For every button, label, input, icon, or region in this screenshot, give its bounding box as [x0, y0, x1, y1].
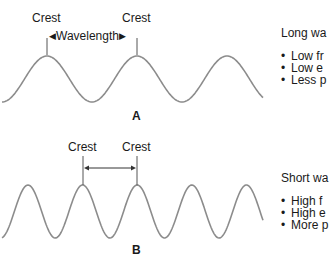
short-wave-description: Short wa High f High e More p	[281, 172, 328, 231]
arrow-left-icon: ◀	[49, 31, 56, 41]
crest-label-a-left: Crest	[32, 11, 61, 25]
long-wave-description: Long wa Low fr Low e Less p	[281, 27, 326, 86]
long-wave-title: Long wa	[281, 27, 326, 40]
long-wave-curve	[2, 56, 263, 102]
long-wave-properties: Low fr Low e Less p	[281, 50, 326, 86]
crest-label-b-left: Crest	[68, 140, 97, 154]
property-item: Less p	[281, 74, 326, 86]
short-wave-title: Short wa	[281, 172, 328, 185]
panel-label-a: A	[132, 109, 141, 123]
panel-label-b: B	[132, 243, 141, 255]
arrow-right-icon: ▶	[119, 31, 126, 41]
crest-label-a-right: Crest	[122, 11, 151, 25]
wavelength-label-a: ◀Wavelength▶	[49, 29, 126, 44]
wavelength-text: Wavelength	[56, 29, 119, 43]
short-wave-properties: High f High e More p	[281, 195, 328, 231]
wavelength-arrow-b	[84, 166, 136, 171]
crest-label-b-right: Crest	[122, 140, 151, 154]
short-wave-curve	[2, 185, 263, 238]
property-item: More p	[281, 219, 328, 231]
